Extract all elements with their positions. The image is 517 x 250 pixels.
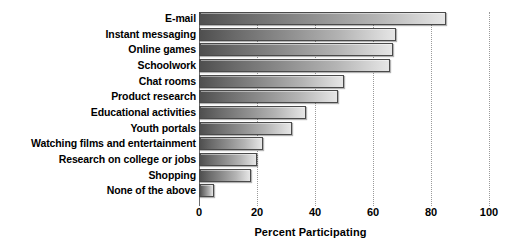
bar-row (199, 122, 489, 135)
category-label: Online games (0, 43, 196, 56)
x-tick-label-0: 0 (179, 206, 219, 218)
bar[interactable] (199, 12, 446, 25)
bar-row (199, 12, 489, 25)
category-label: Product research (0, 90, 196, 103)
bar[interactable] (199, 153, 257, 166)
bar[interactable] (199, 59, 390, 72)
category-label: Chat rooms (0, 75, 196, 88)
category-axis-labels: E-mailInstant messagingOnline gamesSchoo… (0, 12, 196, 202)
bar[interactable] (199, 137, 263, 150)
plot-area (199, 12, 489, 202)
bar-row (199, 106, 489, 119)
category-label: Schoolwork (0, 59, 196, 72)
gridline-100 (489, 12, 491, 206)
bar-row (199, 184, 489, 197)
x-tick-label-20: 20 (237, 206, 277, 218)
category-label: Instant messaging (0, 28, 196, 41)
bar-row (199, 153, 489, 166)
bar[interactable] (199, 75, 344, 88)
bar-row (199, 43, 489, 56)
bar[interactable] (199, 122, 292, 135)
category-label: Youth portals (0, 122, 196, 135)
category-label: None of the above (0, 184, 196, 197)
category-label: Research on college or jobs (0, 153, 196, 166)
category-label: E-mail (0, 12, 196, 25)
bar[interactable] (199, 43, 393, 56)
x-tick-label-80: 80 (411, 206, 451, 218)
x-axis-title: Percent Participating (0, 226, 517, 238)
bar[interactable] (199, 90, 338, 103)
category-label: Watching films and entertainment (0, 137, 196, 150)
category-label: Shopping (0, 169, 196, 182)
x-tick-label-100: 100 (469, 206, 509, 218)
bar[interactable] (199, 106, 306, 119)
x-axis-title-text: Percent Participating (254, 226, 366, 238)
bar-row (199, 90, 489, 103)
bar-chart: E-mailInstant messagingOnline gamesSchoo… (0, 0, 517, 250)
x-tick-label-60: 60 (353, 206, 393, 218)
bar-row (199, 59, 489, 72)
bar[interactable] (199, 184, 214, 197)
bar-row (199, 75, 489, 88)
category-label: Educational activities (0, 106, 196, 119)
bar-row (199, 137, 489, 150)
bar[interactable] (199, 169, 251, 182)
bar[interactable] (199, 28, 396, 41)
bar-row (199, 28, 489, 41)
bar-row (199, 169, 489, 182)
x-tick-label-40: 40 (295, 206, 335, 218)
